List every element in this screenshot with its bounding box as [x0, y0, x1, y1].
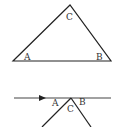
triangle-figure: C A B	[13, 5, 111, 62]
line-figure: A C B	[14, 95, 111, 127]
label-c-bottom: C	[67, 104, 74, 114]
label-a-bottom: A	[51, 98, 59, 108]
label-c-top: C	[66, 12, 73, 22]
label-b-bottom: B	[79, 97, 86, 107]
diagram: C A B A C B	[0, 0, 119, 127]
label-b-top: B	[96, 52, 103, 62]
arrow-icon	[39, 95, 46, 101]
label-a-top: A	[23, 52, 31, 62]
